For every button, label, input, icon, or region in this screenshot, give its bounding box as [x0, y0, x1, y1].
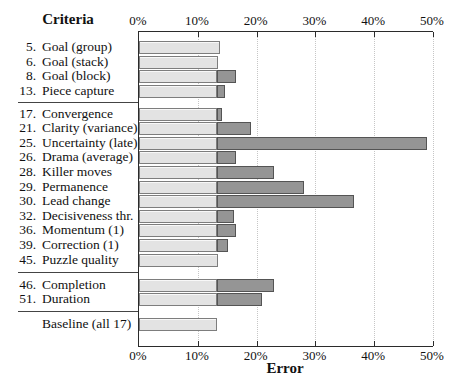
- bar-base-segment: [139, 166, 217, 179]
- criteria-row-text: Clarity (variance): [42, 120, 138, 135]
- bar-delta-segment: [217, 195, 355, 208]
- criteria-row-label: 29.Permanence: [0, 179, 137, 194]
- bottom-tick-20%: [257, 341, 258, 346]
- bar-base-segment: [139, 137, 217, 150]
- axis-tick-label-10%: 10%: [185, 13, 209, 29]
- grid-line-30%: [315, 32, 316, 346]
- criteria-row-label: 25.Uncertainty (late): [0, 135, 137, 150]
- criteria-error-chart: Criteria 5.Goal (group)6.Goal (stack)8.G…: [0, 0, 458, 383]
- criteria-row-number: 25.: [0, 135, 36, 150]
- criteria-row-number: 17.: [0, 106, 36, 121]
- criteria-row-number: 39.: [0, 237, 36, 252]
- criteria-row-label: 39.Correction (1): [0, 237, 137, 252]
- bar-delta-segment: [217, 85, 225, 98]
- bar-delta-segment: [217, 181, 304, 194]
- grid-line-40%: [374, 32, 375, 346]
- criteria-row-label: 36.Momentum (1): [0, 222, 137, 237]
- axis-tick-label-50%: 50%: [420, 348, 444, 364]
- bottom-tick-30%: [315, 341, 316, 346]
- criteria-row-text: Duration: [42, 291, 90, 306]
- bar-delta-segment: [217, 166, 275, 179]
- criteria-row-label: 26.Drama (average): [0, 149, 137, 164]
- criteria-row-number: 45.: [0, 252, 36, 267]
- top-tick-40%: [374, 32, 375, 37]
- axis-tick-label-0%: 0%: [129, 348, 146, 364]
- criteria-row-text: Decisiveness thr.: [42, 208, 133, 223]
- criteria-row-number: 30.: [0, 193, 36, 208]
- bar-delta-segment: [217, 239, 228, 252]
- criteria-row-text: Goal (group): [42, 39, 112, 54]
- criteria-row-number: 21.: [0, 120, 36, 135]
- bar-delta-segment: [217, 108, 222, 121]
- criteria-row-text: Goal (stack): [42, 54, 108, 69]
- bar-base-segment: [139, 41, 220, 54]
- criteria-row-number: 32.: [0, 208, 36, 223]
- criteria-row-label: 13.Piece capture: [0, 83, 137, 98]
- criteria-row-text: Baseline (all 17): [42, 316, 131, 331]
- criteria-row-number: [0, 316, 36, 331]
- axis-tick-label-0%: 0%: [129, 13, 146, 29]
- bar-base-segment: [139, 108, 217, 121]
- criteria-row-label: 8.Goal (block): [0, 68, 137, 83]
- plot-area: [138, 31, 433, 347]
- group-separator-line: [18, 311, 138, 312]
- bar-delta-segment: [217, 151, 236, 164]
- criteria-row-label: 30.Lead change: [0, 193, 137, 208]
- axis-tick-label-20%: 20%: [244, 13, 268, 29]
- bar-base-segment: [139, 195, 217, 208]
- criteria-row-text: Piece capture: [42, 83, 114, 98]
- axis-tick-label-50%: 50%: [420, 13, 444, 29]
- group-separator-line: [18, 102, 138, 103]
- criteria-row-text: Uncertainty (late): [42, 135, 138, 150]
- axis-tick-label-10%: 10%: [185, 348, 209, 364]
- bar-base-segment: [139, 85, 217, 98]
- bar-base-segment: [139, 318, 217, 331]
- grid-line-50%: [433, 32, 434, 346]
- criteria-row-text: Killer moves: [42, 164, 112, 179]
- criteria-row-label: 5.Goal (group): [0, 39, 137, 54]
- criteria-row-text: Correction (1): [42, 237, 119, 252]
- bar-delta-segment: [217, 137, 428, 150]
- bar-delta-segment: [217, 279, 275, 292]
- criteria-row-label: 6.Goal (stack): [0, 54, 137, 69]
- bar-base-segment: [139, 279, 217, 292]
- bar-base-segment: [139, 151, 217, 164]
- axis-tick-label-40%: 40%: [361, 348, 385, 364]
- criteria-row-label: 46.Completion: [0, 277, 137, 292]
- criteria-row-label: 17.Convergence: [0, 106, 137, 121]
- criteria-row-text: Puzzle quality: [42, 252, 119, 267]
- criteria-row-number: 28.: [0, 164, 36, 179]
- criteria-row-number: 29.: [0, 179, 36, 194]
- x-axis-title: Error: [235, 360, 335, 377]
- criteria-row-text: Momentum (1): [42, 222, 124, 237]
- criteria-row-number: 13.: [0, 83, 36, 98]
- criteria-row-number: 36.: [0, 222, 36, 237]
- top-tick-10%: [198, 32, 199, 37]
- axis-tick-label-40%: 40%: [361, 13, 385, 29]
- bar-base-segment: [139, 210, 217, 223]
- criteria-row-number: 6.: [0, 54, 36, 69]
- criteria-column-header: Criteria: [20, 11, 116, 28]
- criteria-row-number: 5.: [0, 39, 36, 54]
- criteria-row-text: Completion: [42, 277, 106, 292]
- bar-base-segment: [139, 239, 217, 252]
- bar-base-segment: [139, 224, 217, 237]
- criteria-row-text: Convergence: [42, 106, 113, 121]
- top-tick-30%: [315, 32, 316, 37]
- bar-base-segment: [139, 181, 217, 194]
- bar-base-segment: [139, 70, 217, 83]
- criteria-row-label: 28.Killer moves: [0, 164, 137, 179]
- bar-delta-segment: [217, 70, 236, 83]
- criteria-row-text: Lead change: [42, 193, 111, 208]
- top-tick-20%: [257, 32, 258, 37]
- criteria-row-number: 8.: [0, 68, 36, 83]
- criteria-row-number: 51.: [0, 291, 36, 306]
- bar-delta-segment: [217, 224, 236, 237]
- criteria-row-text: Drama (average): [42, 149, 133, 164]
- bar-base-segment: [139, 122, 217, 135]
- bar-base-segment: [139, 293, 217, 306]
- criteria-row-text: Permanence: [42, 179, 108, 194]
- criteria-row-label: 32.Decisiveness thr.: [0, 208, 137, 223]
- criteria-row-number: 26.: [0, 149, 36, 164]
- group-separator-line: [18, 272, 138, 273]
